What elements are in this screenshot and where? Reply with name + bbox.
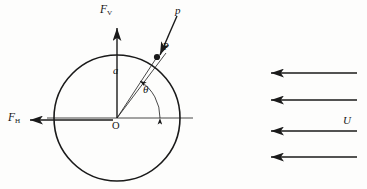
label-radius-a: a	[113, 66, 118, 77]
label-origin-o: O	[112, 121, 120, 132]
figure-canvas: FV FH p P a θ O U	[0, 0, 367, 189]
label-force-vertical-main: F	[100, 3, 107, 15]
label-force-vertical: FV	[100, 4, 112, 16]
label-freestream-u: U	[343, 115, 351, 126]
diagram-svg	[0, 0, 367, 189]
label-angle-theta: θ	[143, 84, 148, 95]
label-point-p: P	[163, 42, 169, 53]
label-force-vertical-subscript: V	[107, 9, 112, 17]
radius-line-a	[117, 57, 157, 118]
label-force-horizontal: FH	[8, 112, 20, 124]
label-force-horizontal-main: F	[8, 111, 15, 123]
point-p-marker	[154, 54, 160, 60]
label-force-horizontal-subscript: H	[15, 117, 20, 125]
label-pressure: p	[175, 5, 181, 16]
